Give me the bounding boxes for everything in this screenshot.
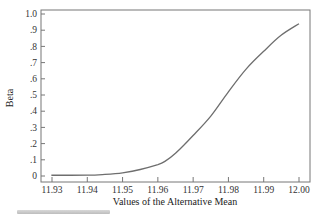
x-tick-label: 11.94 [77, 185, 98, 195]
x-tick-label: 12.00 [288, 185, 310, 195]
x-tick-label: 11.95 [112, 185, 133, 195]
y-tick-label: .3 [30, 123, 37, 133]
x-axis-title: Values of the Alternative Mean [113, 196, 237, 207]
plot-frame [41, 10, 310, 182]
x-tick-label: 11.97 [183, 185, 204, 195]
x-tick-label: 11.96 [147, 185, 168, 195]
y-tick-label: .8 [30, 42, 37, 52]
y-tick-label: .1 [30, 155, 37, 165]
y-tick-label: .9 [30, 25, 37, 35]
y-tick-label: .4 [30, 106, 37, 116]
y-tick-label: .2 [30, 139, 37, 149]
x-tick-label: 11.99 [253, 185, 274, 195]
y-tick-label: .6 [30, 74, 37, 84]
beta-line [52, 24, 299, 176]
x-tick-label: 11.98 [218, 185, 239, 195]
y-tick-label: .7 [30, 58, 37, 68]
beta-curve-chart: 0.1.2.3.4.5.6.7.8.91.0 11.9311.9411.9511… [0, 0, 317, 220]
y-tick-label: .5 [30, 90, 37, 100]
x-axis-ticks: 11.9311.9411.9511.9611.9711.9811.9912.00 [41, 177, 309, 195]
y-axis-ticks: 0.1.2.3.4.5.6.7.8.91.0 [25, 9, 45, 181]
x-tick-label: 11.93 [41, 185, 62, 195]
y-tick-label: 0 [32, 171, 37, 181]
y-axis-title: Beta [4, 88, 15, 107]
y-tick-label: 1.0 [25, 9, 37, 19]
scroll-bar[interactable] [17, 210, 110, 214]
